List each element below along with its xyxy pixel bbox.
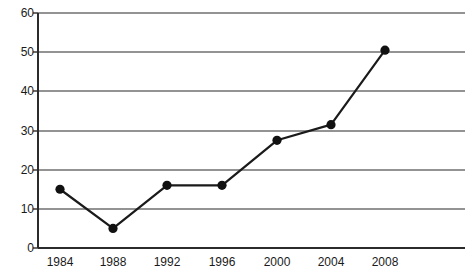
x-tick-label: 2004	[301, 256, 361, 268]
x-axis-labels: 1984198819921996200020042008	[0, 0, 474, 280]
x-tick-label: 1996	[192, 256, 252, 268]
x-tick-label: 2008	[355, 256, 415, 268]
x-tick-label: 2000	[247, 256, 307, 268]
x-tick-label: 1988	[83, 256, 143, 268]
line-chart: 0102030405060 19841988199219962000200420…	[0, 0, 474, 280]
x-tick-label: 1992	[137, 256, 197, 268]
x-tick-label: 1984	[30, 256, 90, 268]
